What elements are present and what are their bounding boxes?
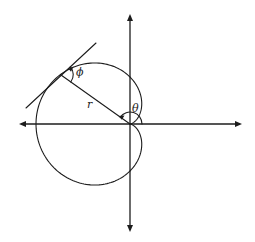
cardioid-diagram: ϕ r θ xyxy=(0,0,255,242)
x-axis-left-arrow-icon xyxy=(19,121,26,127)
y-axis-down-arrow-icon xyxy=(127,225,133,232)
r-label: r xyxy=(87,98,93,111)
y-axis-up-arrow-icon xyxy=(127,14,133,21)
theta-label: θ xyxy=(132,102,139,115)
phi-label: ϕ xyxy=(76,66,84,79)
x-axis-right-arrow-icon xyxy=(235,121,242,127)
